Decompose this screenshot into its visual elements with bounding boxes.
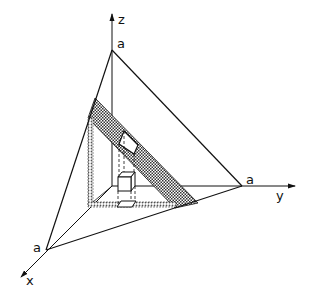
- small-cube: [118, 172, 135, 191]
- axes: [21, 14, 295, 277]
- cube-footprint: [117, 201, 136, 207]
- x-axis: [21, 186, 112, 277]
- x-axis-label: x: [26, 273, 34, 288]
- z-intercept-label: a: [117, 36, 125, 51]
- x-intercept-label: a: [33, 240, 41, 255]
- y-intercept-label: a: [246, 172, 254, 187]
- z-axis-label: z: [118, 12, 125, 27]
- diagram: z a y a x a: [0, 0, 311, 301]
- shaded-band-on-plane: [88, 98, 198, 208]
- y-axis-label: y: [276, 188, 284, 203]
